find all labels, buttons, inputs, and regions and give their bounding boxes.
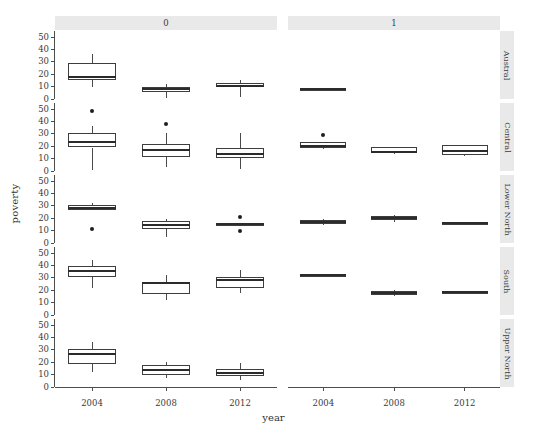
y-tick-label: 10 <box>25 370 49 378</box>
y-tick-label: 10 <box>25 226 49 234</box>
y-axis-line <box>54 175 55 243</box>
y-tick-label: 10 <box>25 154 49 162</box>
panel-1-upper-north <box>288 319 500 387</box>
facet-row-label: South <box>503 269 512 293</box>
box-1-lower-north-2008-median <box>371 217 417 219</box>
y-tick-label: 40 <box>25 333 49 341</box>
x-tick-mark <box>323 388 324 391</box>
y-tick-label: 0 <box>25 167 49 175</box>
box-1-lower-north-2004-lower-whisker <box>323 224 324 225</box>
y-tick-label: 50 <box>25 105 49 113</box>
box-0-south-2008-lower-whisker <box>166 294 167 300</box>
facet-row-strip-central: Central <box>500 103 514 171</box>
x-tick-label: 2012 <box>445 398 485 408</box>
y-axis-line <box>54 319 55 387</box>
y-tick-label: 10 <box>25 298 49 306</box>
y-tick-label: 20 <box>25 286 49 294</box>
x-tick-mark <box>166 388 167 391</box>
box-0-lower-north-2012-median <box>216 223 264 225</box>
box-0-upper-north-2012-median <box>216 372 264 374</box>
y-tick-label: 50 <box>25 321 49 329</box>
facet-row-strip-lower-north: Lower North <box>500 175 514 243</box>
box-1-south-2012-median <box>442 291 488 293</box>
box-0-lower-north-2008-median <box>142 224 190 226</box>
x-tick-label: 2004 <box>303 398 343 408</box>
y-tick-label: 50 <box>25 249 49 257</box>
facet-row-label: Upper North <box>503 327 512 379</box>
box-0-central-2012-upper-whisker <box>240 133 241 148</box>
x-axis-title: year <box>0 412 547 423</box>
box-0-austral-2008-lower-whisker <box>166 92 167 98</box>
box-0-central-2008-median <box>142 149 190 151</box>
y-tick-label: 0 <box>25 383 49 391</box>
box-0-south-2012-median <box>216 279 264 281</box>
box-0-austral-2008-median <box>142 88 190 90</box>
box-1-south-2008-median <box>371 292 417 294</box>
y-tick-label: 0 <box>25 95 49 103</box>
box-0-central-2012-lower-whisker <box>240 158 241 169</box>
y-tick-label: 50 <box>25 177 49 185</box>
box-1-central-2012-median <box>442 150 488 152</box>
box-1-lower-north-2004-median <box>300 221 346 223</box>
facet-row-label: Lower North <box>503 183 512 235</box>
box-1-south-2008-lower-whisker <box>394 295 395 296</box>
facet-row-label: Central <box>503 122 512 152</box>
y-tick-label: 30 <box>25 273 49 281</box>
box-0-austral-2012-lower-whisker <box>240 87 241 97</box>
box-0-central-2008-outlier <box>164 122 168 126</box>
y-tick-label: 40 <box>25 45 49 53</box>
box-0-south-2004-median <box>68 270 116 272</box>
box-1-central-2004-median <box>300 145 346 147</box>
box-0-upper-north-2004-upper-whisker <box>92 342 93 349</box>
box-0-central-2008-lower-whisker <box>166 157 167 167</box>
y-tick-label: 10 <box>25 82 49 90</box>
y-axis-line <box>54 103 55 171</box>
box-0-south-2012-lower-whisker <box>240 288 241 294</box>
box-0-south-2008-median <box>142 282 190 284</box>
x-tick-mark <box>394 388 395 391</box>
box-0-central-2004-upper-whisker <box>92 126 93 133</box>
box-0-south-2012-upper-whisker <box>240 270 241 277</box>
box-0-south-2004-lower-whisker <box>92 277 93 288</box>
box-0-austral-2012-median <box>216 85 264 87</box>
y-tick-label: 30 <box>25 345 49 353</box>
box-0-austral-2004-upper-whisker <box>92 54 93 63</box>
panel-1-central <box>288 103 500 171</box>
y-tick-label: 20 <box>25 214 49 222</box>
facet-row-strip-austral: Austral <box>500 31 514 99</box>
y-tick-label: 30 <box>25 57 49 65</box>
x-tick-label: 2012 <box>220 398 260 408</box>
box-0-upper-north-2008-lower-whisker <box>166 375 167 378</box>
box-1-central-2008-lower-whisker <box>394 153 395 154</box>
box-0-central-2004-lower-whisker <box>92 148 93 170</box>
box-1-lower-north-2012-median <box>442 222 488 224</box>
y-tick-label: 20 <box>25 358 49 366</box>
boxplot-figure: 01AustralCentralLower NorthSouthUpper No… <box>0 0 547 437</box>
y-tick-label: 40 <box>25 261 49 269</box>
y-tick-label: 20 <box>25 142 49 150</box>
panel-1-south <box>288 247 500 315</box>
facet-row-strip-upper-north: Upper North <box>500 319 514 387</box>
box-0-austral-2004-median <box>68 76 116 78</box>
facet-col-label: 0 <box>163 18 168 28</box>
box-0-lower-north-2004-median <box>68 207 116 209</box>
box-0-austral-2004-lower-whisker <box>92 80 93 87</box>
box-1-south-2004-median <box>300 274 346 276</box>
facet-col-strip-1: 1 <box>288 16 500 30</box>
facet-col-strip-0: 0 <box>55 16 277 30</box>
facet-col-label: 1 <box>391 18 396 28</box>
box-1-central-2008-median <box>371 151 417 153</box>
y-axis-line <box>54 247 55 315</box>
facet-row-label: Austral <box>503 50 512 79</box>
y-tick-label: 20 <box>25 70 49 78</box>
box-0-central-2012-median <box>216 153 264 155</box>
box-0-upper-north-2004-median <box>68 353 116 355</box>
box-1-central-2012-lower-whisker <box>464 155 465 156</box>
box-0-lower-north-2012-outlier <box>238 215 242 219</box>
box-0-upper-north-2008-median <box>142 369 190 371</box>
box-0-central-2004-outlier <box>90 109 94 113</box>
box-0-upper-north-2012-lower-whisker <box>240 376 241 380</box>
x-tick-label: 2004 <box>72 398 112 408</box>
box-1-lower-north-2008-lower-whisker <box>394 220 395 222</box>
x-tick-mark <box>92 388 93 391</box>
